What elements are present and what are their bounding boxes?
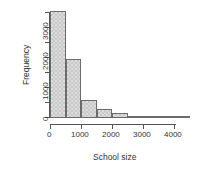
histogram-bar <box>128 116 144 118</box>
histogram-bar <box>97 109 113 118</box>
histogram-bar <box>159 116 175 118</box>
histogram-bar <box>66 59 82 119</box>
x-tick-2000 <box>112 125 113 129</box>
x-tick-label-1000: 1000 <box>71 131 89 139</box>
histogram-plot: 0 1000 2000 3000 0 1000 2000 3000 4000 F… <box>0 0 200 176</box>
y-tick-label-3000: 3000 <box>42 22 50 40</box>
x-tick-4000 <box>174 125 175 129</box>
y-tick-label-2000: 2000 <box>42 52 50 70</box>
x-tick-label-0: 0 <box>47 131 51 139</box>
x-tick-0 <box>50 125 51 129</box>
y-tick-label-1000: 1000 <box>42 82 50 100</box>
x-tick-label-4000: 4000 <box>164 131 182 139</box>
x-tick-3000 <box>143 125 144 129</box>
histogram-bar <box>112 113 128 118</box>
x-tick-label-3000: 3000 <box>133 131 151 139</box>
y-tick-3500 <box>45 12 49 13</box>
histogram-bar <box>81 100 97 118</box>
histogram-bar <box>50 11 66 119</box>
x-tick-label-2000: 2000 <box>102 131 120 139</box>
y-tick-500 <box>45 102 49 103</box>
histogram-bar <box>174 116 190 118</box>
y-tick-label-0: 0 <box>42 117 50 121</box>
histogram-bar <box>143 116 159 118</box>
x-axis-title: School size <box>93 153 136 162</box>
y-tick-2500 <box>45 42 49 43</box>
x-tick-1000 <box>81 125 82 129</box>
y-tick-1500 <box>45 72 49 73</box>
x-axis-line <box>50 124 176 125</box>
y-axis-title: Frequency <box>22 45 31 85</box>
